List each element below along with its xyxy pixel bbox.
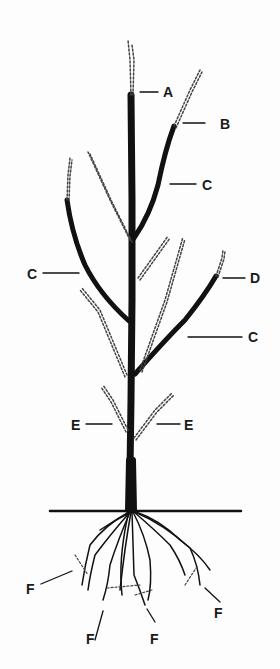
label-f-right: F bbox=[214, 605, 223, 621]
trunk-base bbox=[128, 460, 134, 510]
roots bbox=[82, 512, 210, 605]
label-c-right: C bbox=[248, 329, 258, 345]
label-e-right: E bbox=[184, 417, 193, 433]
branch-b bbox=[134, 126, 174, 238]
pruning-diagram: A B C C D C E E F F F F bbox=[0, 0, 280, 669]
label-a: A bbox=[163, 84, 173, 100]
label-f-center-left: F bbox=[86, 631, 95, 647]
main-trunk bbox=[130, 95, 132, 510]
label-b: B bbox=[220, 116, 230, 132]
tree-illustration: A B C C D C E E F F F F bbox=[0, 0, 280, 669]
label-e-left: E bbox=[71, 417, 80, 433]
pruned-segments bbox=[67, 40, 225, 440]
label-c-left: C bbox=[27, 266, 37, 282]
label-d: D bbox=[250, 270, 260, 286]
label-c-upper: C bbox=[202, 177, 212, 193]
label-f-center-right: F bbox=[150, 631, 159, 647]
label-f-left: F bbox=[26, 581, 35, 597]
